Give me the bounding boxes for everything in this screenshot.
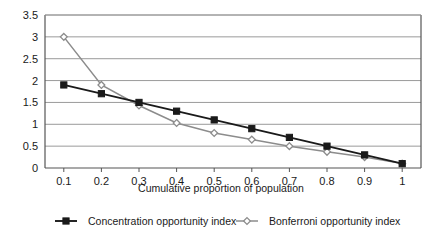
x-tick-label: 1: [399, 175, 405, 187]
y-tick-label: 0: [32, 162, 38, 174]
x-tick-label: 0.1: [56, 175, 71, 187]
data-point-marker: [211, 117, 217, 123]
data-point-marker: [362, 152, 368, 158]
data-point-marker: [286, 134, 292, 140]
x-tick-label: 0.8: [319, 175, 334, 187]
data-point-marker: [249, 126, 255, 132]
data-point-marker: [98, 91, 104, 97]
y-tick-label: 2.5: [23, 53, 38, 65]
y-tick-label: 0.5: [23, 140, 38, 152]
y-tick-label: 1: [32, 118, 38, 130]
data-point-marker: [174, 108, 180, 114]
chart-container: 00.511.522.533.5 0.10.20.30.40.50.60.70.…: [0, 0, 442, 235]
y-tick-label: 3.5: [23, 9, 38, 21]
y-tick-label: 2: [32, 75, 38, 87]
data-point-marker: [399, 161, 405, 167]
y-tick-label: 3: [32, 31, 38, 43]
data-point-marker: [61, 82, 67, 88]
legend-label: Bonferroni opportunity index: [269, 215, 401, 227]
data-point-marker: [63, 218, 69, 224]
data-point-marker: [136, 99, 142, 105]
x-axis-title: Cumulative proportion of population: [138, 182, 304, 194]
y-tick-label: 1.5: [23, 96, 38, 108]
line-chart: 00.511.522.533.5 0.10.20.30.40.50.60.70.…: [0, 0, 442, 235]
chart-legend: Concentration opportunity indexBonferron…: [55, 215, 401, 227]
data-point-marker: [324, 143, 330, 149]
x-tick-label: 0.2: [94, 175, 109, 187]
legend-label: Concentration opportunity index: [88, 215, 237, 227]
x-tick-label: 0.9: [357, 175, 372, 187]
